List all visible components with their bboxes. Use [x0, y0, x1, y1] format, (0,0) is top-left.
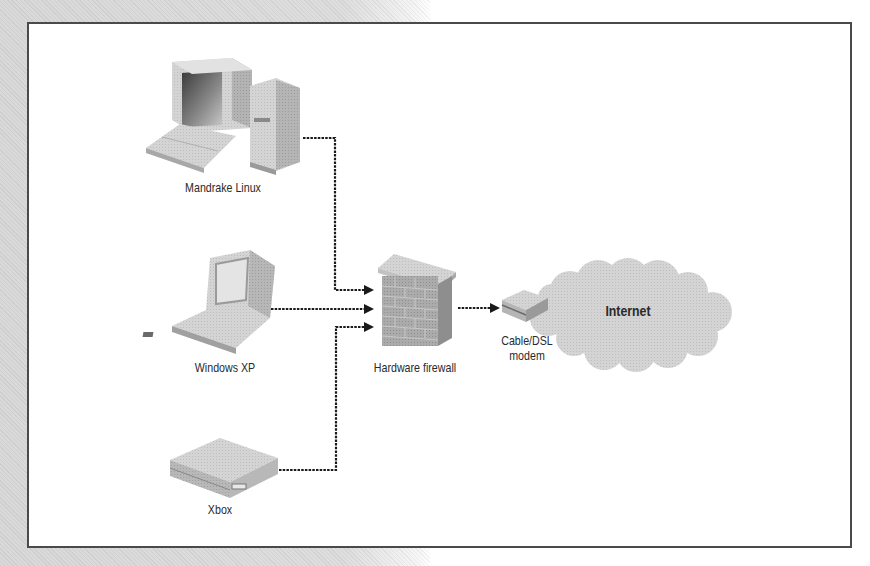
game-console-icon: [170, 438, 278, 498]
edge-xbox-firewall: [279, 327, 372, 470]
node-label-mandrake: Mandrake Linux: [178, 180, 268, 195]
node-label-modem-line2: modem: [494, 348, 560, 363]
node-label-winxp: Windows XP: [180, 360, 270, 375]
brick-wall-icon: [378, 254, 456, 346]
node-label-xbox: Xbox: [187, 502, 253, 517]
node-label-internet: Internet: [595, 302, 661, 319]
laptop-icon: [143, 250, 275, 354]
network-diagram: [0, 0, 870, 566]
node-label-modem-line1: Cable/DSL: [494, 333, 560, 348]
edge-mandrake-firewall: [303, 138, 372, 290]
node-label-firewall: Hardware firewall: [366, 360, 464, 375]
desktop-computer-icon: [146, 58, 300, 175]
